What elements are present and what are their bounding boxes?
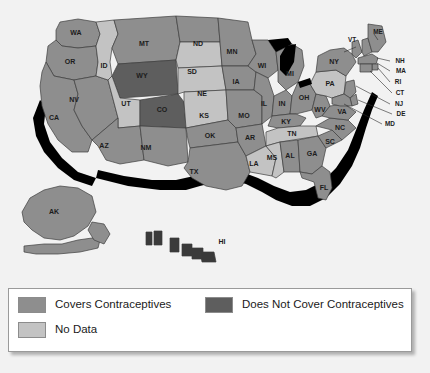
label-AK: AK [49, 208, 59, 215]
label-AR: AR [245, 134, 255, 141]
label-KS: KS [199, 112, 209, 119]
label-KY: KY [281, 118, 291, 125]
label-IN: IN [279, 100, 286, 107]
label-WV: WV [314, 106, 326, 113]
label-NC: NC [335, 124, 345, 131]
label-VA: VA [337, 108, 346, 115]
state-MA[interactable] [358, 54, 378, 64]
legend-swatch-does-not-cover [205, 297, 233, 313]
label-NJ: NJ [395, 100, 404, 107]
state-RI[interactable] [372, 64, 378, 70]
label-TX: TX [190, 168, 199, 175]
state-MO[interactable] [226, 90, 262, 128]
label-IL: IL [261, 100, 268, 107]
state-ND[interactable] [176, 16, 220, 42]
label-NE: NE [197, 90, 207, 97]
label-OK: OK [205, 132, 216, 139]
label-OH: OH [299, 94, 310, 101]
label-WY: WY [136, 72, 148, 79]
label-NM: NM [141, 144, 152, 151]
legend-label-does-not-cover: Does Not Cover Contraceptives [242, 299, 404, 311]
label-OR: OR [65, 58, 76, 65]
map-legend: Covers Contraceptives Does Not Cover Con… [8, 288, 412, 352]
label-WI: WI [258, 62, 267, 69]
label-MD: MD [385, 120, 395, 127]
label-VT: VT [348, 36, 356, 43]
label-RI: RI [395, 78, 402, 85]
label-AZ: AZ [99, 142, 109, 149]
label-WA: WA [70, 29, 81, 36]
state-HI[interactable] [146, 231, 216, 262]
legend-swatch-covers [18, 297, 46, 313]
legend-label-covers: Covers Contraceptives [55, 299, 171, 311]
label-CA: CA [49, 114, 59, 121]
legend-item-covers[interactable]: Covers Contraceptives [18, 297, 171, 313]
label-ME: ME [373, 28, 383, 35]
state-VT[interactable] [352, 40, 362, 58]
label-MT: MT [139, 40, 150, 47]
label-ND: ND [193, 40, 203, 47]
label-CT: CT [396, 89, 405, 96]
label-SC: SC [325, 138, 335, 145]
label-SD: SD [187, 68, 197, 75]
legend-item-no-data[interactable]: No Data [18, 322, 97, 338]
legend-swatch-no-data [18, 322, 46, 338]
label-NV: NV [69, 96, 79, 103]
alaska-aleutians[interactable] [24, 238, 100, 254]
label-MO: MO [238, 112, 250, 119]
label-ID: ID [101, 62, 108, 69]
label-MA: MA [396, 67, 406, 74]
label-TN: TN [287, 130, 296, 137]
state-MN[interactable] [218, 18, 256, 66]
label-FL: FL [320, 184, 329, 191]
label-MI: MI [286, 70, 294, 77]
label-NH: NH [395, 57, 405, 64]
label-CO: CO [157, 106, 168, 113]
label-AL: AL [285, 152, 295, 159]
label-HI: HI [219, 238, 226, 245]
label-LA: LA [249, 160, 258, 167]
label-MN: MN [227, 48, 238, 55]
label-MS: MS [267, 154, 278, 161]
label-NY: NY [329, 58, 339, 65]
state-WY[interactable] [112, 60, 178, 98]
us-contraceptive-coverage-map: WA OR ID MT ND MN WI MI WY SD NE IA NV C… [0, 0, 430, 373]
label-DE: DE [397, 110, 407, 117]
legend-item-does-not-cover[interactable]: Does Not Cover Contraceptives [205, 297, 404, 313]
legend-label-no-data: No Data [55, 324, 97, 336]
label-UT: UT [121, 100, 131, 107]
label-IA: IA [233, 78, 240, 85]
label-GA: GA [307, 150, 318, 157]
label-PA: PA [325, 80, 334, 87]
